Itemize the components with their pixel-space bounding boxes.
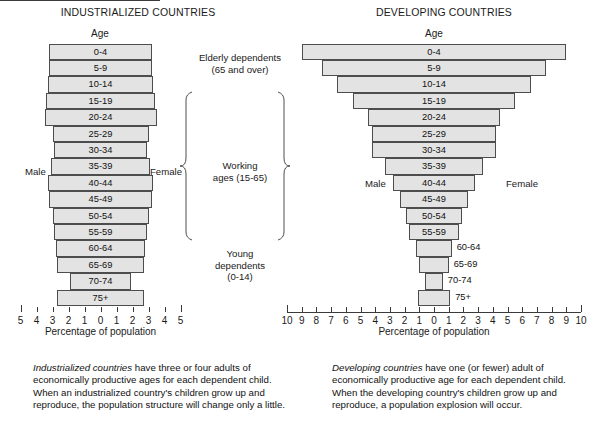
pyramid-bar-label-65-69: 65-69 [451,257,497,273]
x-tick-left-1 [37,307,38,312]
pyramid-bar-5-9: 5-9 [322,60,545,76]
annotation-young-line3: (0-14) [227,271,253,282]
pyramid-bar-60-64 [416,240,451,256]
pyramid-bar-50-54: 50-54 [406,208,462,224]
pyramid-bar-20-24: 20-24 [45,109,157,125]
pyramid-bar-35-39: 35-39 [51,158,150,174]
pyramid-bar-75+ [418,290,450,306]
x-tick-left-6 [117,307,118,312]
x-tick-left-9 [165,307,166,312]
pyramid-bar-30-34: 30-34 [54,142,147,158]
x-axis-caption-left: Percentage of population [21,326,181,337]
pyramid-bar-label-60-64: 60-64 [454,240,500,256]
x-tick-right-18 [552,307,553,312]
pyramid-bar-50-54: 50-54 [53,208,149,224]
pyramid-bar-20-24: 20-24 [368,109,500,125]
x-tick-right-0 [287,305,288,312]
pyramid-bar-label-75+: 75+ [452,290,498,306]
x-axis-right [287,312,581,313]
x-tick-label-left-5-10: 5 [171,315,191,326]
caption-emphasis-left: Industrialized countries [33,362,132,373]
x-tick-left-3 [69,307,70,312]
annotation-elderly-dependents: Elderly dependents (65 and over) [190,52,290,75]
pyramid-bar-25-29: 25-29 [372,126,495,142]
pyramid-bar-45-49: 45-49 [400,191,468,207]
pyramid-bar-60-64: 60-64 [56,240,146,256]
x-tick-right-3 [331,307,332,312]
x-tick-right-9 [419,307,420,312]
pyramid-bar-65-69: 65-69 [57,257,143,273]
pyramid-bar-0-4: 0-4 [49,44,151,60]
caption-emphasis-right: Developing countries [332,362,422,373]
pyramid-bar-70-74: 70-74 [70,273,131,289]
x-tick-right-12 [463,307,464,312]
pyramid-bar-25-29: 25-29 [53,126,149,142]
x-axis-left [0,0,160,1]
x-tick-left-2 [53,307,54,312]
pyramid-bar-55-59: 55-59 [409,224,459,240]
x-tick-right-16 [522,307,523,312]
pyramid-bar-40-44: 40-44 [393,175,475,191]
pyramid-bar-15-19: 15-19 [46,93,155,109]
caption-developing: Developing countries have one (or fewer)… [332,362,590,412]
x-tick-label-right-10-20: 10 [571,315,591,326]
annotation-working-line1: Working [222,160,257,171]
female-label-left: Female [150,166,182,177]
pyramid-bar-label-70-74: 70-74 [445,273,491,289]
annotation-young-dependents: Young dependents (0-14) [190,248,290,283]
panel-title-developing: DEVELOPING COUNTRIES [294,6,594,18]
pyramid-bar-10-14: 10-14 [337,76,531,92]
x-tick-right-20 [581,305,582,312]
x-tick-right-4 [346,307,347,312]
caption-industrialized: Industrialized countries have three or f… [33,362,291,412]
x-tick-right-19 [566,307,567,312]
pyramid-bar-40-44: 40-44 [48,175,154,191]
x-tick-left-4 [85,307,86,312]
x-tick-right-14 [493,307,494,312]
x-tick-right-8 [405,307,406,312]
x-tick-left-5 [101,307,102,312]
pyramid-bar-45-49: 45-49 [49,191,151,207]
annotation-elderly-line2: (65 and over) [211,64,268,75]
annotation-young-line1: Young [227,248,254,259]
x-tick-right-1 [302,307,303,312]
male-label-right: Male [365,178,386,189]
x-tick-right-15 [508,307,509,312]
x-tick-left-10 [181,305,182,312]
annotation-elderly-line1: Elderly dependents [199,52,281,63]
pyramid-bar-0-4: 0-4 [302,44,567,60]
pyramid-bar-5-9: 5-9 [49,60,151,76]
pyramid-bar-65-69 [419,257,448,273]
x-tick-right-13 [478,307,479,312]
pyramid-bar-15-19: 15-19 [353,93,515,109]
annotation-working-line2: ages (15-65) [213,172,267,183]
x-tick-right-17 [537,307,538,312]
annotation-young-line2: dependents [215,260,265,271]
x-tick-left-7 [133,307,134,312]
pyramid-bar-10-14: 10-14 [48,76,154,92]
x-tick-left-8 [149,307,150,312]
x-axis-caption-right: Percentage of population [354,326,514,337]
pyramid-bar-55-59: 55-59 [54,224,147,240]
x-tick-right-5 [361,307,362,312]
age-axis-label-left: Age [80,28,120,39]
x-tick-right-7 [390,307,391,312]
developing-panel: DEVELOPING COUNTRIES Age Male Female 75+… [300,0,600,437]
x-tick-right-10 [434,307,435,312]
pyramid-bar-70-74 [425,273,443,289]
female-label-right: Female [506,178,538,189]
x-tick-right-11 [449,307,450,312]
age-axis-label-right: Age [414,28,454,39]
male-label-left: Male [25,166,46,177]
pyramid-bar-35-39: 35-39 [385,158,482,174]
pyramid-bar-30-34: 30-34 [372,142,495,158]
x-tick-left-0 [21,305,22,312]
pyramid-bar-75+: 75+ [57,290,143,306]
panel-title-industrialized: INDUSTRIALIZED COUNTRIES [0,6,288,18]
x-tick-right-2 [316,307,317,312]
annotation-working-ages: Working ages (15-65) [190,160,290,183]
x-tick-right-6 [375,307,376,312]
